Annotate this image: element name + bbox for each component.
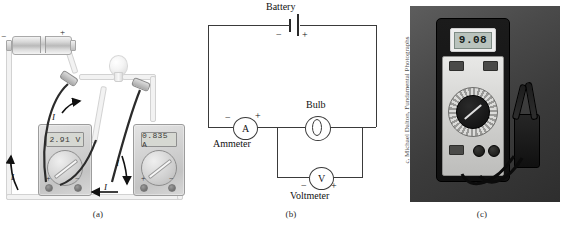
voltmeter-label: Voltmeter bbox=[290, 190, 329, 201]
schematic-wire-bottom-left bbox=[208, 127, 233, 128]
battery-terminal-positive-cap bbox=[70, 40, 76, 51]
current-label-bottom: I bbox=[104, 182, 107, 192]
schematic-branch-right bbox=[362, 127, 363, 177]
battery-label: Battery bbox=[266, 1, 295, 12]
range-selector-knob[interactable] bbox=[456, 95, 490, 129]
probe-holder bbox=[514, 114, 540, 168]
current-label-right: I bbox=[116, 158, 119, 168]
battery-minus-sign: − bbox=[1, 31, 6, 41]
light-bulb-base bbox=[114, 72, 123, 82]
panel-c-caption: (c) bbox=[452, 209, 512, 219]
schematic-wire-bottom-mid bbox=[256, 127, 305, 128]
current-label-top: I bbox=[52, 112, 55, 122]
panel-c-multimeter-photo: c, Michael Dalton, Fundamental Photograp… bbox=[386, 0, 578, 233]
current-label-left: I bbox=[11, 172, 14, 182]
figure-root: − + 2.91 V + − 0.835 A + − bbox=[0, 0, 578, 233]
battery-plus-sign: + bbox=[60, 27, 65, 37]
ammeter-display: 0.835 A bbox=[141, 132, 177, 147]
voltmeter-device[interactable]: 2.91 V + − bbox=[38, 124, 92, 196]
voltmeter-plus-sign: + bbox=[331, 180, 337, 191]
schematic-wire-bottom-right bbox=[329, 127, 376, 128]
ammeter-symbol-letter: A bbox=[242, 123, 249, 134]
input-jack-volts[interactable] bbox=[488, 145, 500, 157]
schematic-wire-top-right bbox=[300, 25, 376, 26]
wire-voltmeter-branch bbox=[91, 86, 107, 144]
multimeter-lcd: 9.08 bbox=[454, 32, 492, 49]
schematic-wire-right bbox=[376, 25, 377, 127]
voltmeter-jack-positive[interactable] bbox=[45, 184, 53, 192]
voltmeter-jack-negative[interactable] bbox=[74, 184, 82, 192]
ammeter-jack-positive[interactable] bbox=[140, 184, 148, 192]
multimeter-reading: 9.08 bbox=[459, 34, 487, 46]
ammeter-plus-sign: + bbox=[255, 110, 261, 121]
panel-b-schematic: Battery − + A − + Ammeter Bulb V − + Vol… bbox=[196, 0, 386, 233]
ammeter-jack-negative[interactable] bbox=[168, 184, 176, 192]
battery-pack bbox=[12, 36, 72, 55]
mode-switch[interactable] bbox=[483, 61, 498, 71]
schematic-branch-left bbox=[277, 127, 278, 177]
range-selector-ring bbox=[448, 87, 498, 137]
voltmeter-display: 2.91 V bbox=[46, 132, 84, 147]
battery-minus-sign: − bbox=[276, 29, 282, 40]
multimeter-display-bezel: 9.08 bbox=[450, 28, 496, 52]
battery-terminal-negative-cap bbox=[6, 40, 12, 51]
schematic-branch-bottom-left bbox=[277, 177, 309, 178]
schematic-branch-bottom-right bbox=[332, 177, 363, 178]
panel-a-circuit-photo: − + 2.91 V + − 0.835 A + − bbox=[0, 0, 196, 233]
voltmeter-symbol-letter: V bbox=[318, 173, 325, 184]
current-arrow-top bbox=[62, 101, 80, 113]
power-switch[interactable] bbox=[449, 61, 464, 71]
voltmeter-minus-label: − bbox=[75, 175, 80, 183]
input-jack-com[interactable] bbox=[473, 145, 485, 157]
battery-symbol-gap-wire bbox=[286, 25, 290, 26]
schematic-wire-top-left bbox=[208, 25, 286, 26]
panel-a-caption: (a) bbox=[68, 209, 128, 219]
battery-plus-sign: + bbox=[302, 29, 308, 40]
voltmeter-plus-label: + bbox=[46, 175, 51, 183]
schematic-wire-left bbox=[208, 25, 209, 127]
voltmeter-reading: 2.91 V bbox=[49, 135, 80, 144]
ammeter-minus-sign: − bbox=[225, 112, 231, 123]
ammeter-label: Ammeter bbox=[213, 138, 251, 149]
multimeter-faceplate bbox=[442, 56, 504, 176]
multimeter-photograph: 9.08 bbox=[410, 6, 560, 202]
ammeter-reading: 0.835 A bbox=[142, 131, 176, 149]
battery-symbol-long-plate bbox=[297, 14, 299, 36]
ammeter-plus-label: + bbox=[141, 175, 146, 183]
current-arrow-right bbox=[122, 156, 127, 184]
input-jack-current[interactable] bbox=[449, 145, 464, 155]
wire-right-down-to-ammeter bbox=[150, 76, 156, 122]
ammeter-minus-label: − bbox=[169, 175, 174, 183]
wire-bulb-left bbox=[79, 74, 115, 80]
bulb-filament-icon bbox=[305, 116, 329, 139]
ammeter-device[interactable]: 0.835 A + − bbox=[133, 124, 185, 196]
bulb-label: Bulb bbox=[306, 99, 325, 110]
panel-b-caption: (b) bbox=[261, 209, 321, 219]
